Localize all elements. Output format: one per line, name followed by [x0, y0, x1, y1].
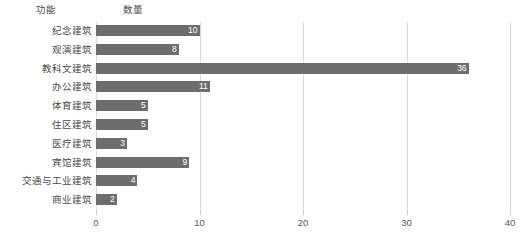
bar-value-label: 36: [457, 63, 466, 74]
bar[interactable]: 9: [96, 157, 189, 168]
bar[interactable]: 3: [96, 138, 127, 149]
category-axis-labels: 纪念建筑观演建筑教科文建筑办公建筑体育建筑住区建筑医疗建筑宾馆建筑交通与工业建筑…: [0, 22, 92, 210]
bar-row[interactable]: 5: [96, 116, 510, 135]
bar-value-label: 5: [141, 119, 146, 130]
x-tick-mark: [200, 210, 201, 215]
x-tick-label: 10: [194, 217, 205, 228]
bar-row[interactable]: 2: [96, 191, 510, 210]
x-tick-mark: [510, 210, 511, 215]
category-label: 教科文建筑: [0, 60, 92, 79]
x-axis: 010203040: [96, 210, 510, 234]
bar-row[interactable]: 4: [96, 172, 510, 191]
column-header-category: 功能: [36, 4, 56, 16]
bar[interactable]: 2: [96, 194, 117, 205]
bar-value-label: 5: [141, 100, 146, 111]
bar-row[interactable]: 9: [96, 154, 510, 173]
category-label: 医疗建筑: [0, 135, 92, 154]
bar-value-label: 11: [199, 81, 208, 92]
bar-value-label: 3: [120, 138, 125, 149]
x-tick-label: 0: [93, 217, 98, 228]
x-tick-label: 40: [505, 217, 516, 228]
x-tick-label: 20: [298, 217, 309, 228]
bar[interactable]: 4: [96, 175, 137, 186]
bar-value-label: 8: [172, 44, 177, 55]
bar[interactable]: 11: [96, 81, 210, 92]
category-label: 体育建筑: [0, 97, 92, 116]
bar-value-label: 4: [131, 175, 136, 186]
bar-chart: 功能 数量 纪念建筑观演建筑教科文建筑办公建筑体育建筑住区建筑医疗建筑宾馆建筑交…: [0, 0, 530, 241]
x-tick-mark: [407, 210, 408, 215]
category-label: 宾馆建筑: [0, 154, 92, 173]
x-tick-mark: [303, 210, 304, 215]
bar-rows: 1083611553942: [96, 22, 510, 210]
bar[interactable]: 8: [96, 44, 179, 55]
x-tick-mark: [96, 210, 97, 215]
bar-row[interactable]: 5: [96, 97, 510, 116]
category-label: 商业建筑: [0, 191, 92, 210]
bar[interactable]: 5: [96, 100, 148, 111]
bar[interactable]: 36: [96, 63, 469, 74]
bar[interactable]: 5: [96, 119, 148, 130]
bar-value-label: 9: [182, 157, 187, 168]
gridline-40: [510, 22, 511, 210]
bar-row[interactable]: 3: [96, 135, 510, 154]
bar-row[interactable]: 11: [96, 78, 510, 97]
column-header-value: 数量: [123, 4, 143, 16]
category-label: 住区建筑: [0, 116, 92, 135]
bar-row[interactable]: 36: [96, 60, 510, 79]
bar-value-label: 10: [188, 25, 197, 36]
bar-row[interactable]: 8: [96, 41, 510, 60]
bar-value-label: 2: [110, 194, 115, 205]
bar-row[interactable]: 10: [96, 22, 510, 41]
category-label: 交通与工业建筑: [0, 172, 92, 191]
plot-area: 1083611553942: [96, 22, 510, 210]
category-label: 纪念建筑: [0, 22, 92, 41]
bar[interactable]: 10: [96, 25, 200, 36]
x-tick-label: 30: [401, 217, 412, 228]
category-label: 办公建筑: [0, 78, 92, 97]
category-label: 观演建筑: [0, 41, 92, 60]
